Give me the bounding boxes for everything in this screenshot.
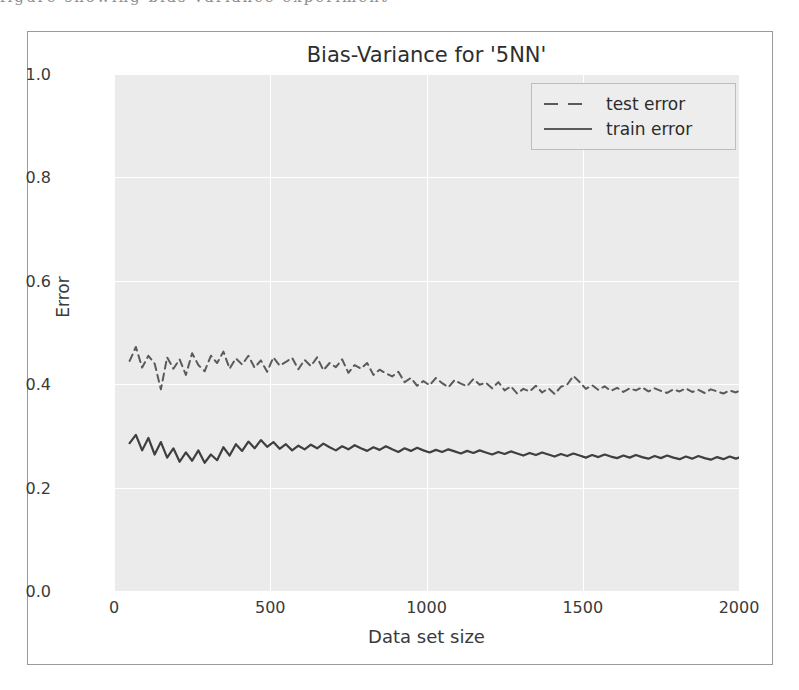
page-title: Bias-Variance for '5NN'	[114, 43, 739, 67]
legend-label-train-error: train error	[606, 119, 692, 139]
y-tick-label: 0.6	[0, 271, 51, 290]
solid-line-icon	[542, 123, 594, 135]
dashed-line-icon	[542, 98, 594, 110]
legend: test error train error	[531, 83, 736, 150]
x-tick-label: 1000	[387, 598, 467, 617]
y-tick-label: 0.0	[0, 582, 51, 601]
figure-inner: Bias-Variance for '5NN' 0.00.20.40.60.81…	[28, 32, 772, 664]
y-tick-label: 0.4	[0, 375, 51, 394]
legend-item-test-error: test error	[542, 91, 725, 116]
x-tick-label: 0	[74, 598, 154, 617]
plot-lines	[114, 74, 739, 591]
legend-item-train-error: train error	[542, 116, 725, 141]
x-tick-label: 500	[230, 598, 310, 617]
scan-text-fragment: figure showing bias variance experiment	[0, 0, 799, 12]
y-axis-label: Error	[53, 237, 73, 357]
y-tick-label: 1.0	[0, 65, 51, 84]
gridline-horizontal	[114, 591, 739, 592]
plot-axes	[114, 74, 739, 591]
y-tick-label: 0.8	[0, 168, 51, 187]
x-tick-label: 1500	[543, 598, 623, 617]
series-line-test-error	[130, 347, 739, 394]
series-line-train-error	[130, 435, 739, 463]
figure-frame: Bias-Variance for '5NN' 0.00.20.40.60.81…	[27, 31, 773, 665]
legend-label-test-error: test error	[606, 94, 685, 114]
y-tick-label: 0.2	[0, 478, 51, 497]
gridline-vertical	[739, 74, 740, 591]
x-tick-label: 2000	[699, 598, 779, 617]
x-axis-label: Data set size	[114, 626, 739, 647]
